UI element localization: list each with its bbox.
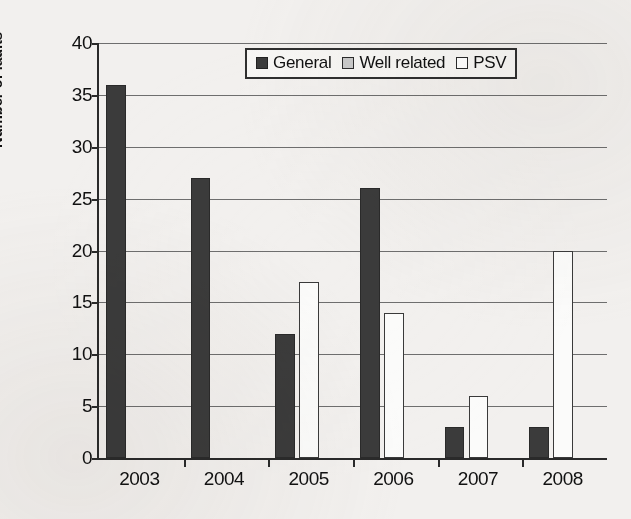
bar-general-2003 xyxy=(106,85,126,459)
x-axis-tick xyxy=(353,460,355,467)
y-axis-tick-label: 5 xyxy=(58,395,92,417)
y-axis-tick xyxy=(92,458,99,460)
legend-swatch-psv-icon xyxy=(456,57,468,69)
bar-well-related-2005 xyxy=(299,282,319,458)
legend-label-general: General xyxy=(273,53,331,73)
x-axis-tick-label: 2004 xyxy=(204,468,244,490)
y-axis-tick-label: 10 xyxy=(58,343,92,365)
gridline xyxy=(99,95,607,96)
y-axis-tick xyxy=(92,406,99,408)
gridline xyxy=(99,354,607,355)
y-axis-tick xyxy=(92,251,99,253)
bar-general-2008 xyxy=(529,427,549,458)
y-axis-tick-label: 25 xyxy=(58,188,92,210)
legend-swatch-general-icon xyxy=(256,57,268,69)
chart-legend: General Well related PSV xyxy=(245,48,517,79)
x-axis-tick-label: 2007 xyxy=(458,468,498,490)
x-axis-tick xyxy=(438,460,440,467)
y-axis-tick-label: 20 xyxy=(58,240,92,262)
y-axis-tick-label: 40 xyxy=(58,32,92,54)
gridline xyxy=(99,199,607,200)
y-axis-title: Number of faults xyxy=(0,0,5,190)
x-axis-tick-label: 2006 xyxy=(373,468,413,490)
bar-general-2004 xyxy=(191,178,211,458)
legend-label-well-related: Well related xyxy=(359,53,445,73)
bar-well-related-2008 xyxy=(553,251,573,459)
y-axis-tick-label: 0 xyxy=(58,447,92,469)
gridline xyxy=(99,251,607,252)
gridline xyxy=(99,406,607,407)
legend-item-psv[interactable]: PSV xyxy=(456,53,506,73)
y-axis-tick-label: 30 xyxy=(58,136,92,158)
y-axis-tick xyxy=(92,199,99,201)
legend-label-psv: PSV xyxy=(473,53,506,73)
legend-item-general[interactable]: General xyxy=(256,53,331,73)
y-axis-tick xyxy=(92,95,99,97)
x-axis-tick-label: 2005 xyxy=(289,468,329,490)
legend-swatch-well-related-icon xyxy=(342,57,354,69)
plot-area xyxy=(97,43,607,460)
bar-general-2006 xyxy=(360,188,380,458)
gridline xyxy=(99,43,607,44)
y-axis-tick-label: 35 xyxy=(58,84,92,106)
x-axis-tick-label: 2003 xyxy=(119,468,159,490)
bar-general-2007 xyxy=(445,427,465,458)
gridline xyxy=(99,302,607,303)
bar-general-2005 xyxy=(275,334,295,459)
y-axis-tick xyxy=(92,147,99,149)
gridline xyxy=(99,147,607,148)
bar-well-related-2007 xyxy=(469,396,489,458)
y-axis-tick-labels: 0510152025303540 xyxy=(52,0,92,519)
bar-well-related-2006 xyxy=(384,313,404,458)
x-axis-tick xyxy=(522,460,524,467)
bar-chart: Number of faults 0510152025303540 200320… xyxy=(0,0,631,519)
y-axis-tick-label: 15 xyxy=(58,291,92,313)
y-axis-tick xyxy=(92,302,99,304)
y-axis-tick xyxy=(92,43,99,45)
y-axis-tick xyxy=(92,354,99,356)
x-axis-tick-label: 2008 xyxy=(543,468,583,490)
x-axis-tick xyxy=(184,460,186,467)
x-axis-tick xyxy=(268,460,270,467)
legend-item-well-related[interactable]: Well related xyxy=(342,53,445,73)
